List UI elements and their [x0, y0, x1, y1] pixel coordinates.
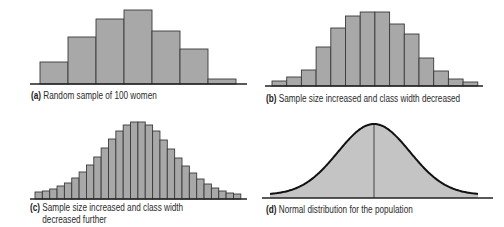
panel-d-normal-curve — [262, 124, 493, 198]
histogram-bar — [42, 191, 49, 199]
histogram-bar — [153, 131, 160, 199]
caption-c-line1: (c) Sample size increased and class widt… — [30, 202, 183, 214]
figure-plots — [0, 0, 504, 227]
histogram-bar — [94, 157, 101, 199]
histogram-bar — [123, 125, 130, 199]
histogram-bar — [152, 31, 180, 84]
histogram-bar — [390, 24, 405, 86]
histogram-bar — [346, 16, 361, 86]
histogram-bar — [434, 71, 449, 86]
histogram-bar — [360, 12, 375, 86]
histogram-bar — [124, 10, 152, 84]
caption-b-tag: (b) — [266, 93, 276, 104]
histogram-bar — [175, 158, 182, 199]
histogram-bar — [101, 148, 108, 199]
panel-a-histogram — [30, 10, 247, 84]
histogram-bar — [204, 184, 211, 199]
histogram-bar — [272, 81, 287, 86]
histogram-bar — [86, 165, 93, 199]
histogram-bar — [68, 37, 96, 84]
histogram-bar — [448, 79, 463, 86]
histogram-bar — [145, 125, 152, 199]
histogram-bar — [109, 139, 116, 199]
histogram-bar — [331, 28, 346, 86]
caption-a-tag: (a) — [31, 90, 41, 101]
histogram-bar — [180, 49, 208, 84]
histogram-bar — [226, 193, 233, 199]
histogram-bar — [160, 140, 167, 199]
histogram-bar — [35, 192, 42, 199]
caption-c: (c) Sample size increased and class widt… — [30, 202, 183, 226]
histogram-to-normal-figure: (a) Random sample of 100 women (b) Sampl… — [0, 0, 504, 227]
panel-c-histogram — [30, 122, 247, 199]
histogram-bar — [182, 166, 189, 199]
histogram-bar — [167, 149, 174, 199]
histogram-bar — [419, 58, 434, 86]
histogram-bar — [64, 183, 71, 199]
histogram-bar — [219, 191, 226, 199]
caption-b-text: Sample size increased and class width de… — [279, 93, 460, 104]
histogram-bar — [404, 34, 419, 86]
histogram-bar — [138, 122, 145, 199]
histogram-bar — [116, 131, 123, 199]
caption-a-text: Random sample of 100 women — [43, 90, 157, 101]
histogram-bar — [208, 79, 236, 84]
caption-a: (a) Random sample of 100 women — [31, 90, 157, 102]
caption-c-text-line2: decreased further — [30, 214, 183, 226]
histogram-bar — [50, 189, 57, 199]
caption-d-tag: (d) — [266, 204, 276, 215]
panel-b-histogram — [265, 12, 483, 86]
histogram-bar — [287, 77, 302, 86]
histogram-bar — [233, 194, 240, 199]
histogram-bar — [131, 122, 138, 199]
histogram-bar — [301, 70, 316, 86]
histogram-bar — [40, 62, 68, 84]
histogram-bar — [211, 188, 218, 199]
histogram-bar — [375, 12, 390, 86]
caption-b: (b) Sample size increased and class widt… — [266, 93, 460, 105]
caption-d: (d) Normal distribution for the populati… — [266, 204, 413, 216]
histogram-bar — [316, 47, 331, 86]
histogram-bar — [197, 179, 204, 199]
histogram-bar — [79, 172, 86, 199]
histogram-bar — [189, 173, 196, 199]
histogram-bar — [57, 186, 64, 199]
histogram-bar — [72, 178, 79, 199]
caption-c-text-line1: Sample size increased and class width — [42, 202, 183, 213]
histogram-bar — [96, 19, 124, 84]
caption-d-text: Normal distribution for the population — [279, 204, 413, 215]
caption-c-tag: (c) — [30, 202, 40, 213]
